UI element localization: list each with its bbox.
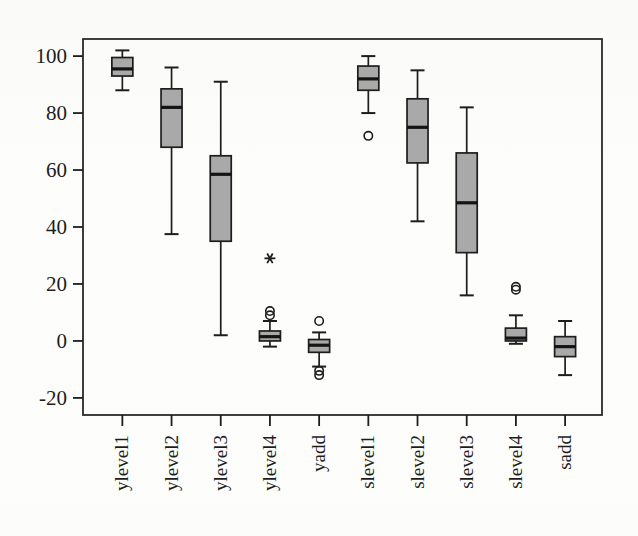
box-rect — [161, 89, 182, 147]
x-axis-tick-label: ylevel3 — [210, 435, 231, 491]
y-axis-tick-label: 20 — [46, 272, 67, 296]
x-axis-tick-label: slevel4 — [505, 435, 526, 489]
box-group — [161, 67, 182, 234]
box-rect — [407, 99, 428, 163]
box-group — [309, 317, 330, 380]
outlier-marker — [364, 132, 372, 140]
y-axis-tick-label: 100 — [36, 44, 68, 68]
outlier-marker — [315, 317, 323, 325]
x-axis-tick-label: yadd — [308, 435, 329, 472]
box-rect — [210, 156, 231, 241]
box-group — [112, 50, 133, 90]
y-axis-tick-label: 60 — [46, 158, 67, 182]
box-group — [259, 254, 280, 347]
box-group — [456, 107, 477, 295]
y-axis-tick-label: 80 — [46, 101, 67, 125]
x-axis-tick-label: slevel1 — [357, 435, 378, 489]
extreme-outlier-marker — [264, 254, 275, 264]
boxplot-figure: -20020406080100ylevel1ylevel2ylevel3ylev… — [0, 0, 638, 536]
box-group — [555, 321, 576, 375]
x-axis-tick-label: ylevel1 — [111, 435, 132, 491]
box-group — [505, 283, 526, 344]
x-axis-tick-label: ylevel4 — [259, 435, 280, 491]
x-axis-tick-label: ylevel2 — [161, 435, 182, 491]
box-group — [358, 56, 379, 140]
box-group — [210, 82, 231, 336]
y-axis-tick-label: 0 — [57, 329, 68, 353]
y-axis-tick-label: 40 — [46, 215, 67, 239]
box-group — [407, 70, 428, 221]
boxplot-canvas: -20020406080100ylevel1ylevel2ylevel3ylev… — [0, 0, 638, 536]
x-axis-tick-label: slevel2 — [407, 435, 428, 489]
y-axis-tick-label: -20 — [39, 386, 67, 410]
x-axis-tick-label: slevel3 — [456, 435, 477, 489]
box-rect — [112, 58, 133, 77]
x-axis-tick-label: sadd — [554, 435, 575, 470]
